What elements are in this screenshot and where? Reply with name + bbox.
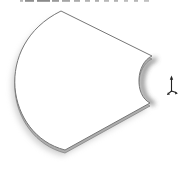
cropped-text-artifact (20, 0, 149, 2)
part-3d-model[interactable] (15, 11, 152, 150)
text-dash (95, 0, 99, 2)
cad-viewport (0, 0, 190, 169)
text-dash (37, 0, 50, 2)
graphics-area (0, 0, 190, 169)
text-dash (144, 0, 149, 2)
text-dash (134, 0, 138, 2)
text-dash (25, 0, 34, 2)
origin-triad-icon (167, 76, 178, 96)
text-dash (85, 0, 90, 2)
text-dash (124, 0, 128, 2)
text-dash (114, 0, 118, 2)
text-dash (74, 0, 80, 2)
text-dash (52, 0, 59, 2)
text-dash (62, 0, 70, 2)
text-dash (104, 0, 109, 2)
text-dash (20, 0, 23, 2)
